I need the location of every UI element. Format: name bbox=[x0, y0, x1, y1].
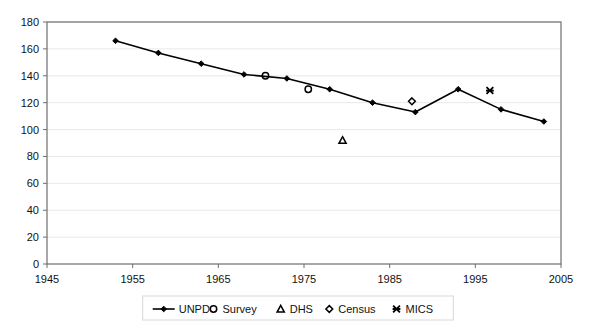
y-tick-label: 0 bbox=[33, 258, 39, 270]
series-dhs bbox=[339, 137, 346, 144]
legend-label-mics: MICS bbox=[406, 303, 434, 315]
legend-label-census: Census bbox=[338, 303, 376, 315]
series-line-unpd bbox=[116, 41, 544, 122]
y-tick-label: 140 bbox=[21, 70, 39, 82]
marker-filled-diamond bbox=[284, 76, 290, 82]
legend-label-dhs: DHS bbox=[290, 303, 313, 315]
series-census bbox=[409, 98, 416, 105]
legend-label-unpd: UNPD bbox=[179, 303, 210, 315]
x-axis: 1945195519651975198519952005 bbox=[35, 264, 573, 285]
x-tick-label: 1995 bbox=[463, 273, 487, 285]
marker-filled-diamond bbox=[370, 100, 376, 106]
marker-filled-diamond bbox=[156, 50, 162, 56]
y-axis: 180160140120100806040200 bbox=[21, 16, 47, 270]
marker-filled-diamond bbox=[327, 86, 333, 92]
y-tick-label: 80 bbox=[27, 150, 39, 162]
marker-filled-diamond bbox=[198, 61, 204, 67]
legend-label-survey: Survey bbox=[223, 303, 258, 315]
marker-open-diamond bbox=[409, 98, 416, 105]
x-tick-label: 1955 bbox=[120, 273, 144, 285]
x-tick-label: 1975 bbox=[292, 273, 316, 285]
legend: UNPDSurveyDHSCensusMICS bbox=[143, 296, 454, 320]
x-tick-label: 2005 bbox=[549, 273, 573, 285]
x-tick-label: 1985 bbox=[377, 273, 401, 285]
plot-border bbox=[47, 22, 561, 264]
series-mics bbox=[486, 87, 494, 94]
marker-filled-diamond bbox=[455, 86, 461, 92]
y-tick-label: 100 bbox=[21, 124, 39, 136]
y-tick-label: 120 bbox=[21, 97, 39, 109]
gridlines bbox=[47, 22, 561, 237]
chart-container: 1801601401201008060402001945195519651975… bbox=[0, 0, 598, 330]
x-tick-label: 1945 bbox=[35, 273, 59, 285]
plot-frame bbox=[47, 22, 561, 264]
x-tick-label: 1965 bbox=[206, 273, 230, 285]
marker-filled-diamond bbox=[413, 109, 419, 115]
y-tick-label: 180 bbox=[21, 16, 39, 28]
marker-filled-diamond bbox=[498, 107, 504, 113]
line-chart: 1801601401201008060402001945195519651975… bbox=[0, 0, 598, 330]
marker-open-circle bbox=[305, 86, 311, 92]
y-tick-label: 60 bbox=[27, 177, 39, 189]
marker-x bbox=[486, 87, 494, 94]
y-tick-label: 40 bbox=[27, 204, 39, 216]
marker-filled-diamond bbox=[541, 119, 547, 125]
marker-filled-diamond bbox=[241, 72, 247, 78]
y-tick-label: 160 bbox=[21, 43, 39, 55]
series-unpd bbox=[113, 38, 547, 124]
y-tick-label: 20 bbox=[27, 231, 39, 243]
marker-open-triangle bbox=[339, 137, 346, 144]
marker-filled-diamond bbox=[113, 38, 119, 44]
